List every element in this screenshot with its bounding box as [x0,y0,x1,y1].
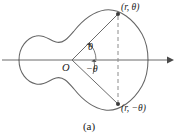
label-origin: O [62,63,70,74]
figure-caption: (a) [0,120,178,132]
polar-axis-arrowhead [167,57,174,64]
polar-symmetry-figure: (r, θ) (r, −θ) O θ −θ (a) [0,0,178,138]
point-marker-r-theta [116,12,120,16]
label-angle-negative-theta: −θ [86,64,98,74]
label-point-r-theta: (r, θ) [121,3,139,13]
radius-lines [72,14,118,104]
point-marker-r-negative-theta [116,102,120,106]
label-angle-positive-theta: θ [88,42,93,52]
label-point-r-negative-theta: (r, −θ) [121,104,146,114]
polar-curve-upper-half [19,10,148,60]
